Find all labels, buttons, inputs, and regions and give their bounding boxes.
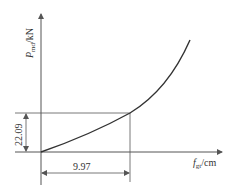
- diagram-canvas: Pmd/kN fgt/cm 22.09 9.97: [0, 0, 234, 189]
- load-deflection-curve: [41, 40, 190, 152]
- y-dimension-label: 22.09: [13, 124, 24, 147]
- x-axis-label: fgt/cm: [193, 157, 216, 170]
- y-axis-label: Pmd/kN: [24, 28, 37, 59]
- x-dimension-label: 9.97: [73, 161, 91, 172]
- svg-text:Pmd/kN: Pmd/kN: [24, 28, 37, 59]
- svg-text:22.09: 22.09: [13, 124, 24, 147]
